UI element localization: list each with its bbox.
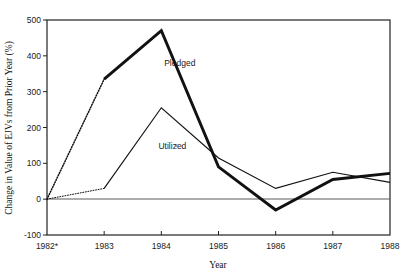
y-tick-label: 500: [27, 15, 41, 25]
y-tick-label: 300: [27, 87, 41, 97]
series-annotation-utilized: Utilized: [158, 141, 186, 151]
chart-svg: -1000100200300400500 1982*19831984198519…: [0, 0, 418, 272]
y-tick-label: 400: [27, 51, 41, 61]
y-tick-label: -100: [24, 230, 41, 240]
x-tick-label: 1985: [209, 241, 228, 251]
series-annotation-pledged: Pledged: [164, 58, 195, 68]
chart-figure: -1000100200300400500 1982*19831984198519…: [0, 0, 418, 272]
y-tick-label: 100: [27, 158, 41, 168]
y-tick-label: 200: [27, 123, 41, 133]
x-tick-label: 1986: [266, 241, 285, 251]
chart-background: [0, 0, 418, 272]
x-tick-label: 1987: [323, 241, 342, 251]
x-tick-label: 1983: [95, 241, 114, 251]
x-tick-label: 1982*: [36, 241, 59, 251]
y-tick-label: 0: [36, 194, 41, 204]
x-axis-title: Year: [209, 260, 227, 270]
x-tick-label: 1988: [381, 241, 400, 251]
y-axis-title: Change in Value of EJVs from Prior Year …: [4, 41, 15, 215]
x-tick-label: 1984: [152, 241, 171, 251]
